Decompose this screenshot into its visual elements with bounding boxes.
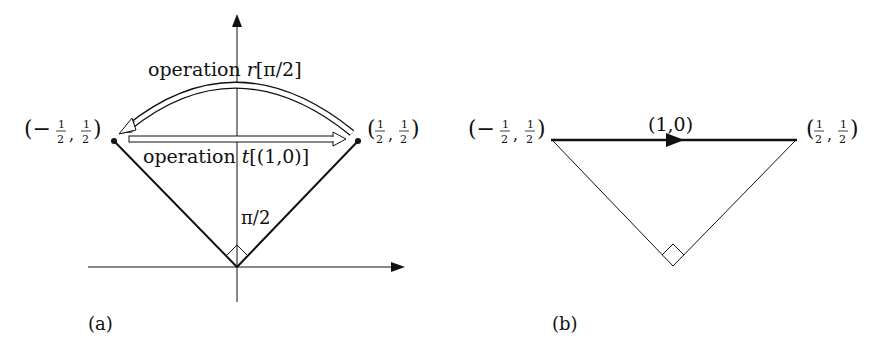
svg-text:1: 1: [58, 118, 65, 131]
right-point-label: ( 1 2 , 1 2 ): [367, 116, 420, 146]
right-point-label-b: ( 1 2 , 1 2 ): [806, 116, 859, 146]
x-axis-arrowhead-icon: [391, 262, 405, 272]
svg-text:1: 1: [401, 118, 408, 131]
svg-text:1: 1: [502, 118, 509, 131]
svg-text:,: ,: [388, 125, 393, 144]
svg-text:(: (: [367, 116, 376, 141]
caption-b: (b): [552, 313, 578, 334]
svg-text:2: 2: [57, 133, 64, 146]
svg-text:1: 1: [83, 118, 90, 131]
vector-label: (1,0): [648, 113, 693, 135]
svg-text:2: 2: [400, 133, 407, 146]
svg-text:): ): [537, 116, 546, 141]
rotation-label: operation r[π/2]: [148, 58, 302, 80]
svg-text:1: 1: [527, 118, 534, 131]
svg-text:2: 2: [839, 133, 846, 146]
translation-label: operation t[(1,0)]: [143, 145, 309, 167]
svg-text:,: ,: [69, 125, 74, 144]
y-axis-arrowhead-icon: [232, 14, 242, 27]
svg-text:2: 2: [501, 133, 508, 146]
panel-b: (1,0) (− 1 2 , 1 2 ) ( 1 2 , 1 2 ) (b): [468, 113, 859, 334]
svg-text:): ): [93, 116, 102, 141]
left-point-label: (− 1 2 , 1 2 ): [24, 116, 102, 146]
caption-a: (a): [88, 313, 113, 334]
figure-canvas: operation r[π/2] operation t[(1,0)] π/2 …: [0, 0, 886, 359]
svg-text:1: 1: [840, 118, 847, 131]
svg-text:,: ,: [513, 125, 518, 144]
left-point-dot: [111, 138, 117, 144]
vector-arrowhead-icon: [666, 133, 684, 147]
svg-text:1: 1: [377, 118, 384, 131]
right-leg: [673, 141, 795, 266]
svg-text:(−: (−: [468, 116, 495, 141]
svg-text:2: 2: [526, 133, 533, 146]
svg-text:): ): [411, 116, 420, 141]
rotation-arrow-icon: [119, 85, 352, 134]
panel-a: operation r[π/2] operation t[(1,0)] π/2 …: [24, 14, 420, 334]
left-point-label-b: (− 1 2 , 1 2 ): [468, 116, 546, 146]
svg-text:): ): [850, 116, 859, 141]
svg-text:(−: (−: [24, 116, 51, 141]
right-point-dot: [355, 138, 361, 144]
right-angle-mark-icon: [662, 244, 684, 255]
svg-text:,: ,: [827, 125, 832, 144]
svg-text:2: 2: [815, 133, 822, 146]
angle-label: π/2: [241, 207, 270, 228]
svg-text:2: 2: [376, 133, 383, 146]
svg-text:1: 1: [816, 118, 823, 131]
left-leg: [553, 141, 673, 266]
svg-text:(: (: [806, 116, 815, 141]
svg-text:2: 2: [82, 133, 89, 146]
